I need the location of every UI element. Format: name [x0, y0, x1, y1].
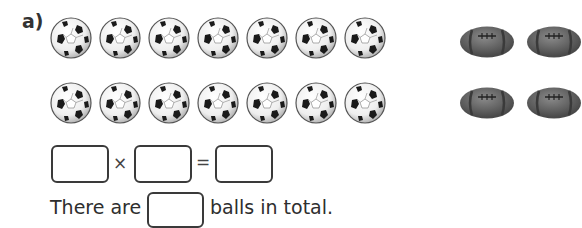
factor2-input[interactable] [134, 145, 192, 183]
soccer-ball-icon [344, 82, 386, 124]
soccer-ball-icon [344, 17, 386, 59]
soccer-ball-icon [295, 82, 337, 124]
soccer-ball-icon [99, 82, 141, 124]
times-sign: × [113, 153, 127, 173]
soccer-ball-icon [295, 17, 337, 59]
sentence-suffix: balls in total. [210, 196, 333, 218]
soccer-ball-icon [99, 17, 141, 59]
soccer-ball-icon [197, 82, 239, 124]
factor1-input[interactable] [51, 145, 109, 183]
soccer-ball-icon [197, 17, 239, 59]
sentence-prefix: There are [50, 196, 141, 218]
soccer-ball-icon [50, 17, 92, 59]
total-answer-input[interactable] [147, 192, 204, 228]
soccer-ball-icon [246, 17, 288, 59]
soccer-ball-icon [50, 82, 92, 124]
american-football-icon [526, 25, 582, 59]
american-football-icon [459, 86, 515, 120]
product-input[interactable] [215, 145, 273, 183]
american-football-icon [526, 86, 582, 120]
soccer-ball-icon [246, 82, 288, 124]
soccer-ball-icon [148, 82, 190, 124]
soccer-ball-icon [148, 17, 190, 59]
equals-sign: = [196, 152, 210, 172]
question-label: a) [22, 10, 44, 32]
american-football-icon [459, 25, 515, 59]
